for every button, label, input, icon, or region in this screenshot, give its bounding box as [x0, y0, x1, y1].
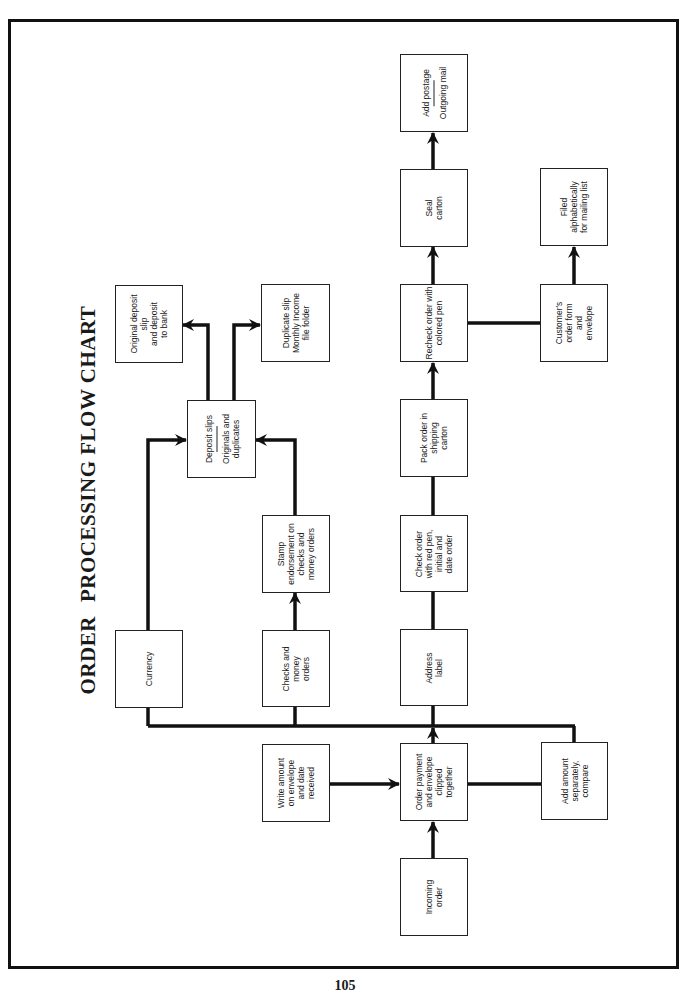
box-checks-money-orders: Checks andmoneyorders	[262, 630, 330, 707]
box-seal-carton: Sealcarton	[400, 169, 468, 247]
box-text: alphabetically	[569, 181, 579, 233]
box-filed-alphabetically: Filedalphabeticallyfor mailing list	[540, 168, 608, 246]
box-text: label	[434, 652, 444, 683]
box-check-order: Check orderwith red pen,initial anddate …	[400, 515, 468, 592]
box-text: money	[291, 646, 301, 691]
box-text: money orders	[306, 523, 316, 584]
box-text: Seal	[424, 196, 434, 220]
box-stamp-endorsement: Stampendorsement onchecks andmoney order…	[262, 515, 330, 593]
box-text: shipping	[429, 413, 439, 463]
box-text: Originals and	[220, 414, 230, 464]
box-recheck-order: Recheck order withcolored pen	[400, 284, 468, 362]
box-text: Checks and	[281, 646, 291, 691]
box-text: separately,	[570, 758, 580, 804]
box-text: order form	[564, 302, 574, 345]
chart-title: ORDERPROCESSING FLOW CHART	[76, 306, 101, 695]
box-text: Address	[424, 652, 434, 683]
box-text: order	[434, 880, 444, 915]
box-text: received	[306, 758, 316, 808]
box-text: colored pen	[434, 287, 444, 360]
page-number: 105	[335, 978, 356, 994]
box-text: Order payment	[414, 754, 424, 811]
box-text: and date	[296, 758, 306, 808]
box-incoming-order: Incomingorder	[400, 858, 468, 936]
box-text: Filed	[559, 181, 569, 233]
box-text: Add amount	[560, 758, 570, 804]
box-text: Write amount	[276, 758, 286, 808]
box-text: and deposit	[149, 294, 159, 353]
box-text: file folder	[301, 293, 311, 353]
box-currency: Currency	[115, 630, 183, 708]
box-write-amount: Write amounton envelopeand datereceived	[262, 744, 330, 822]
box-duplicate-slip: Duplicate slipMonthly Incomefile folder	[261, 284, 330, 362]
box-text: orders	[301, 646, 311, 691]
box-text: duplicates	[230, 414, 240, 464]
box-customers-order-form: Customer'sorder formandenvelope	[540, 284, 608, 362]
divider-rule	[216, 426, 217, 452]
box-text: envelope	[584, 302, 594, 345]
box-text: compare	[580, 758, 590, 804]
title-word-processing: PROCESSING FLOW CHART	[76, 306, 100, 602]
box-text: Duplicate slip	[281, 293, 291, 353]
box-text: and envelope	[424, 754, 434, 811]
box-text: Stamp	[276, 523, 286, 584]
box-text: date order	[444, 529, 454, 578]
box-text: Monthly Income	[291, 293, 301, 353]
box-text: and	[574, 302, 584, 345]
box-text: Check order	[414, 529, 424, 578]
divider-rule	[434, 80, 435, 106]
box-pack-order: Pack order inshippingcarton	[400, 399, 468, 477]
box-add-amount: Add amountseparately,compare	[541, 742, 608, 820]
box-text: Recheck order with	[424, 287, 434, 360]
box-text: clipped	[434, 754, 444, 811]
box-text: checks and	[296, 523, 306, 584]
box-add-postage: Add postageOutgoing mail	[400, 54, 468, 132]
box-order-payment: Order paymentand envelopeclippedtogether	[400, 743, 468, 821]
box-text: carton	[439, 413, 449, 463]
box-text: Deposit slips	[203, 414, 213, 464]
box-text: with red pen,	[424, 529, 434, 578]
box-original-deposit: Original depositslipand depositto bank	[115, 285, 183, 363]
box-text: endorsement on	[286, 523, 296, 584]
box-text: Outgoing mail	[438, 67, 448, 119]
box-text: together	[444, 754, 454, 811]
box-address-label: Addresslabel	[400, 629, 468, 706]
box-text: Currency	[144, 652, 154, 686]
box-text: on envelope	[286, 758, 296, 808]
box-text: Customer's	[554, 302, 564, 345]
box-text: slip	[139, 294, 149, 353]
box-text: Incoming	[424, 880, 434, 915]
box-deposit-slips: Deposit slipsOriginals andduplicates	[187, 400, 256, 478]
box-text: initial and	[434, 529, 444, 578]
box-text: Add postage	[421, 67, 431, 119]
title-word-order: ORDER	[76, 616, 100, 694]
box-text: to bank	[159, 294, 169, 353]
box-text: Original deposit	[129, 294, 139, 353]
box-text: carton	[434, 196, 444, 220]
box-text: Pack order in	[419, 413, 429, 463]
box-text: for mailing list	[579, 181, 589, 233]
